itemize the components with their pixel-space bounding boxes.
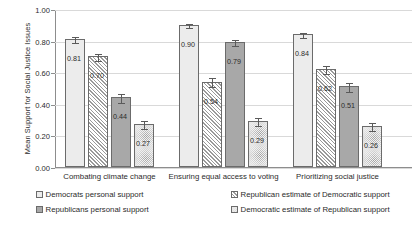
error-bar xyxy=(258,118,259,126)
bar-value-label: 0.62 xyxy=(318,84,332,93)
y-tick-label: 1.00 xyxy=(10,6,50,15)
legend-label: Republicans personal support xyxy=(46,205,149,214)
bar-value-label: 0.84 xyxy=(295,49,309,58)
legend-item[interactable]: Democratic estimate of Republican suppor… xyxy=(231,205,390,214)
plot-area: 1.000.800.600.400.200.000.810.700.440.27… xyxy=(55,10,412,168)
y-tick-mark xyxy=(51,42,55,43)
x-category-label: Prioritizing social justice xyxy=(258,172,416,181)
legend-label: Republican estimate of Democratic suppor… xyxy=(241,190,390,199)
bar-value-label: 0.27 xyxy=(136,139,150,148)
bar-value-label: 0.54 xyxy=(204,97,218,106)
error-bar-cap-top xyxy=(209,78,216,79)
bar-value-label: 0.79 xyxy=(227,57,241,66)
bar xyxy=(202,82,222,167)
bar-value-label: 0.81 xyxy=(67,54,81,63)
bar-value-label: 0.29 xyxy=(250,136,264,145)
bar xyxy=(111,97,131,167)
y-axis-line xyxy=(55,10,56,168)
error-bar-cap-top xyxy=(323,66,330,67)
legend-swatch-icon xyxy=(36,191,43,198)
error-bar xyxy=(326,66,327,74)
chart-legend: Democrats personal supportRepublicans pe… xyxy=(36,190,412,222)
error-bar-cap-top xyxy=(118,94,125,95)
error-bar-cap-bottom xyxy=(118,103,125,104)
error-bar-cap-top xyxy=(300,33,307,34)
error-bar-cap-bottom xyxy=(369,131,376,132)
error-bar-cap-bottom xyxy=(209,87,216,88)
error-bar-cap-bottom xyxy=(232,46,239,47)
error-bar xyxy=(144,121,145,129)
error-bar-cap-bottom xyxy=(255,126,262,127)
error-bar-cap-bottom xyxy=(323,74,330,75)
legend-item[interactable]: Democrats personal support xyxy=(36,190,143,199)
error-bar-cap-top xyxy=(255,118,262,119)
bar-value-label: 0.51 xyxy=(341,101,355,110)
y-tick-label: 0.20 xyxy=(10,132,50,141)
bar xyxy=(339,86,359,167)
error-bar-cap-top xyxy=(141,121,148,122)
error-bar xyxy=(98,54,99,62)
error-bar xyxy=(121,94,122,103)
error-bar-cap-bottom xyxy=(186,28,193,29)
error-bar-cap-top xyxy=(72,37,79,38)
error-bar-cap-top xyxy=(95,54,102,55)
error-bar-cap-bottom xyxy=(95,61,102,62)
legend-label: Democratic estimate of Republican suppor… xyxy=(241,205,390,214)
error-bar-cap-bottom xyxy=(300,38,307,39)
y-tick-mark xyxy=(51,168,55,169)
error-bar-cap-bottom xyxy=(72,43,79,44)
error-bar-cap-bottom xyxy=(346,92,353,93)
bar-chart-figure: Mean Support for Social Justice Issues 1… xyxy=(0,0,416,225)
error-bar-cap-top xyxy=(186,24,193,25)
error-bar xyxy=(372,123,373,131)
error-bar xyxy=(212,78,213,87)
legend-swatch-icon xyxy=(231,206,238,213)
legend-swatch-icon xyxy=(231,191,238,198)
error-bar-cap-top xyxy=(369,123,376,124)
bar-value-label: 0.70 xyxy=(90,71,104,80)
y-tick-mark xyxy=(51,73,55,74)
y-tick-mark xyxy=(51,136,55,137)
bar-value-label: 0.26 xyxy=(364,141,378,150)
y-tick-mark xyxy=(51,105,55,106)
legend-swatch-icon xyxy=(36,206,43,213)
y-tick-label: 0.40 xyxy=(10,101,50,110)
y-tick-label: 0.80 xyxy=(10,38,50,47)
y-gridline xyxy=(55,10,412,11)
error-bar xyxy=(349,83,350,92)
legend-label: Democrats personal support xyxy=(46,190,144,199)
error-bar-cap-top xyxy=(346,83,353,84)
y-tick-mark xyxy=(51,10,55,11)
legend-item[interactable]: Republicans personal support xyxy=(36,205,149,214)
legend-item[interactable]: Republican estimate of Democratic suppor… xyxy=(231,190,390,199)
error-bar-cap-bottom xyxy=(141,129,148,130)
y-gridline xyxy=(55,168,412,169)
bar-value-label: 0.90 xyxy=(181,40,195,49)
y-tick-label: 0.60 xyxy=(10,69,50,78)
y-axis-title: Mean Support for Social Justice Issues xyxy=(23,4,32,174)
error-bar-cap-top xyxy=(232,40,239,41)
bar-value-label: 0.44 xyxy=(113,112,127,121)
